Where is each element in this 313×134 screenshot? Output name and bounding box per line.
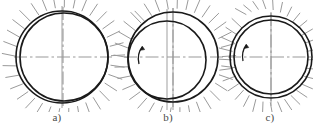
- hatch-line: [115, 43, 129, 48]
- hatch-line: [3, 41, 17, 46]
- rotation-arrow-icon: [242, 45, 248, 62]
- hatch-line: [42, 0, 47, 11]
- hatch-line: [129, 92, 140, 100]
- hatch-line: [188, 105, 190, 112]
- bearing-svg-a: [0, 0, 125, 112]
- hatch-line: [155, 0, 160, 12]
- hatch-line: [73, 0, 76, 8]
- hatch-line: [235, 8, 246, 14]
- panel-caption-c: c): [250, 111, 290, 123]
- hatch-line: [228, 84, 239, 91]
- hatch-line: [20, 10, 31, 21]
- hatch-line: [53, 0, 56, 8]
- hatch-line: [273, 0, 274, 10]
- diagram-page: a) b) c): [0, 0, 313, 134]
- hatch-line: [253, 1, 259, 9]
- hatch-line: [90, 4, 98, 16]
- hatch-line: [280, 2, 282, 13]
- hatch-line: [232, 18, 242, 28]
- hatch-line: [100, 91, 110, 101]
- hatch-line: [223, 76, 236, 81]
- hatch-line: [144, 4, 152, 16]
- hatch-line: [78, 106, 80, 112]
- hatch-line: [10, 84, 23, 89]
- panel-caption-a: a): [37, 111, 77, 123]
- hatch-line: [287, 7, 292, 17]
- bearing-diagram-c: [218, 0, 313, 112]
- hatch-line: [131, 12, 142, 23]
- hatch-line: [204, 97, 211, 109]
- hatch-line: [13, 20, 25, 29]
- hatch-line: [17, 92, 28, 100]
- hatch-line: [243, 5, 251, 12]
- rotation-arrow-icon: [138, 47, 144, 65]
- hatch-line: [253, 99, 256, 112]
- hatch-line: [118, 76, 131, 79]
- bearing-diagram-a: [0, 0, 125, 112]
- hatch-line: [97, 12, 107, 22]
- hatch-line: [5, 75, 19, 77]
- hatch-line: [285, 99, 292, 110]
- hatch-line: [263, 0, 266, 9]
- hatch-line: [2, 53, 16, 56]
- hatch-line: [235, 90, 244, 100]
- hatch-line: [7, 30, 20, 38]
- hatch-line: [296, 90, 307, 97]
- bearing-svg-c: [218, 0, 313, 112]
- panel-caption-b: b): [148, 111, 188, 123]
- hatch-line: [202, 5, 210, 17]
- hatch-line: [301, 84, 313, 89]
- hatch-line: [138, 98, 147, 109]
- hatch-line: [166, 0, 169, 9]
- hatch-line: [194, 0, 200, 13]
- hatch-line: [86, 103, 91, 113]
- hatch-line: [243, 95, 249, 106]
- hatch-line: [186, 0, 189, 10]
- hatch-line: [196, 102, 201, 112]
- hatch-line: [291, 95, 300, 104]
- hatch-line: [124, 21, 136, 31]
- hatch-line: [226, 27, 238, 35]
- hatch-line: [31, 3, 39, 15]
- hatch-line: [135, 11, 145, 21]
- hatch-line: [293, 13, 300, 22]
- hatch-line: [122, 84, 134, 89]
- hatch-line: [25, 98, 35, 108]
- hatch-line: [82, 0, 88, 11]
- hatch-line: [93, 97, 101, 109]
- hatch-line: [118, 32, 131, 40]
